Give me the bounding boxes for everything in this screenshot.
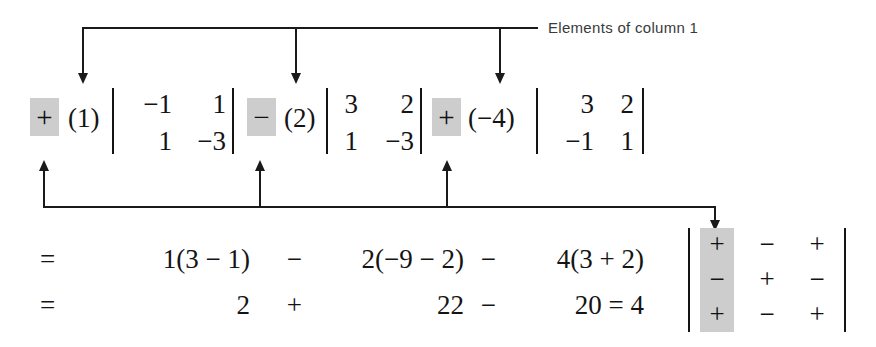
minor-cell-r2c1: −1: [540, 128, 594, 155]
bottom-connector-1: [43, 171, 45, 207]
result-line-2-part-1: 2: [120, 292, 250, 319]
result-line-2-operator-1: +: [278, 292, 302, 319]
term-3-sign: +: [432, 98, 461, 136]
sign-matrix-cell-r1c1: +: [700, 231, 734, 258]
minor-cell-r2c2: −3: [366, 128, 414, 155]
sign-matrix-cell-r1c2: −: [750, 231, 784, 258]
result-line-2-part-3: 20 = 4: [518, 292, 644, 319]
term-2-minor-determinant: 3 2 1 −3: [326, 88, 422, 154]
minor-cell-r1c2: 2: [598, 91, 634, 118]
result-line-2-part-2: 22: [316, 292, 464, 319]
minor-cell-r2c2: −3: [174, 128, 226, 155]
bottom-bracket-horizontal: [43, 206, 716, 208]
determinant-bar-right: [420, 88, 422, 154]
term-1-coefficient: (1): [68, 105, 99, 132]
result-line-1-part-2: 2(−9 − 2): [316, 246, 464, 273]
top-connector-2: [295, 27, 297, 74]
sign-matrix-cell-r2c3: −: [800, 266, 834, 293]
term-2-coefficient: (2): [284, 105, 315, 132]
top-bracket-horizontal: [82, 27, 538, 29]
determinant-bar-left: [536, 88, 538, 154]
minor-cell-r2c1: 1: [332, 128, 358, 155]
top-connector-3: [499, 27, 501, 74]
bottom-arrow-3-icon: [442, 160, 452, 171]
minor-cell-r1c1: 3: [332, 91, 358, 118]
minor-cell-r1c2: 2: [366, 91, 414, 118]
determinant-bar-right: [642, 88, 644, 154]
result-line-1-part-3: 4(3 + 2): [518, 246, 644, 273]
sign-matrix-cell-r1c3: +: [800, 231, 834, 258]
result-line-1-operator-1: −: [278, 246, 302, 273]
top-arrow-1-icon: [78, 73, 88, 84]
sign-pattern-matrix: + − + − + − + − +: [688, 228, 846, 332]
sign-matrix-bar-left: [688, 228, 690, 332]
sign-matrix-cell-r2c1: −: [700, 266, 734, 293]
minor-cell-r1c2: 1: [174, 91, 226, 118]
term-1-minor-determinant: −1 1 1 −3: [112, 88, 234, 154]
top-connector-1: [82, 27, 84, 74]
term-3-coefficient: (−4): [468, 105, 515, 132]
sign-matrix-bar-right: [844, 228, 846, 332]
minor-cell-r2c1: 1: [120, 128, 172, 155]
bottom-connector-2: [259, 171, 261, 207]
top-arrow-3-icon: [495, 73, 505, 84]
determinant-bar-left: [112, 88, 114, 154]
bottom-connector-3: [446, 171, 448, 207]
bottom-arrow-2-icon: [255, 160, 265, 171]
sign-matrix-cell-r2c2: +: [750, 266, 784, 293]
caption-elements-of-column-1: Elements of column 1: [548, 19, 698, 36]
result-line-1-operator-2: −: [472, 246, 496, 273]
term-1-sign: +: [30, 98, 59, 136]
sign-matrix-cell-r3c2: −: [750, 301, 784, 328]
sign-matrix-cell-r3c3: +: [800, 301, 834, 328]
term-3-minor-determinant: 3 2 −1 1: [536, 88, 644, 154]
minor-cell-r1c1: 3: [540, 91, 594, 118]
determinant-bar-right: [232, 88, 234, 154]
sign-matrix-cell-r3c1: +: [700, 301, 734, 328]
term-2-sign: −: [247, 98, 276, 136]
top-arrow-2-icon: [291, 73, 301, 84]
result-line-2-operator-2: −: [472, 292, 496, 319]
determinant-bar-left: [326, 88, 328, 154]
minor-cell-r2c2: 1: [598, 128, 634, 155]
bottom-arrow-1-icon: [39, 160, 49, 171]
result-line-2-equals: =: [40, 292, 70, 319]
result-line-1-part-1: 1(3 − 1): [120, 246, 250, 273]
minor-cell-r1c1: −1: [120, 91, 172, 118]
result-line-1-equals: =: [40, 246, 70, 273]
figure-canvas: Elements of column 1 + (1) −1 1 1 −3 − (…: [0, 0, 876, 347]
